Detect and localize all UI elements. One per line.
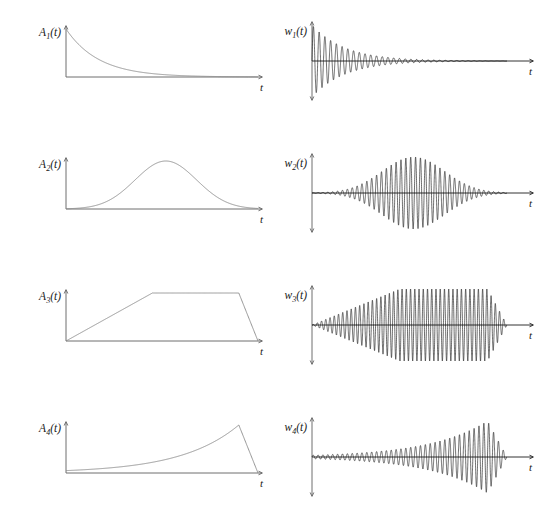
waveform-figure: A1(t)tw1(t)tA2(t)tw2(t)tA3(t)tw3(t)tA4(t…: [0, 0, 534, 528]
x-axis-label: t: [529, 461, 533, 473]
waveform-curve-w4: [312, 423, 507, 492]
waveform-curve-w2: [312, 157, 507, 229]
y-axis-label-w4: w4(t): [284, 421, 307, 436]
panel-A2: A2(t)t: [0, 132, 267, 264]
y-axis-label-A4: A4(t): [38, 422, 61, 437]
envelope-curve-A2: [66, 161, 258, 209]
y-axis-label-A1: A1(t): [38, 26, 61, 41]
y-axis-label-A2: A2(t): [38, 158, 61, 173]
x-axis-label: t: [260, 345, 264, 357]
y-axis-label-w2: w2(t): [284, 157, 307, 172]
panel-A4: A4(t)t: [0, 396, 267, 528]
y-axis-label-A3: A3(t): [38, 290, 61, 305]
panel-w2: w2(t)t: [267, 132, 534, 264]
x-axis-label: t: [529, 329, 533, 341]
waveform-curve-w1: [312, 27, 507, 93]
panel-A3: A3(t)t: [0, 264, 267, 396]
panel-A1: A1(t)t: [0, 0, 267, 132]
panel-w1: w1(t)t: [267, 0, 534, 132]
y-axis-label-w1: w1(t): [284, 25, 307, 40]
x-axis-label: t: [529, 197, 533, 209]
x-axis-label: t: [260, 213, 264, 225]
y-axis-label-w3: w3(t): [284, 289, 307, 304]
envelope-curve-A3: [66, 293, 258, 341]
envelope-curve-A4: [66, 425, 258, 473]
x-axis-label: t: [260, 81, 264, 93]
panel-w4: w4(t)t: [267, 396, 534, 528]
panel-w3: w3(t)t: [267, 264, 534, 396]
envelope-curve-A1: [66, 29, 258, 77]
x-axis-label: t: [260, 477, 264, 489]
x-axis-label: t: [529, 65, 533, 77]
